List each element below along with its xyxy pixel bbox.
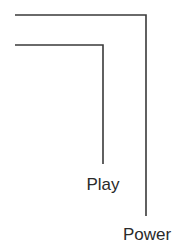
- power-label: Power: [123, 226, 171, 243]
- play-label: Play: [86, 176, 119, 193]
- play-leader-line: [15, 45, 103, 164]
- leader-lines: [0, 0, 186, 252]
